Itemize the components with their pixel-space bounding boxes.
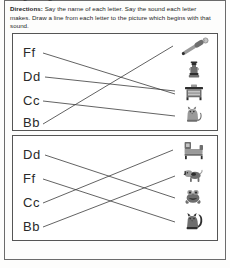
worksheet-page: Beginning sounds: Bb, Cc, Dd, Ff Directi… bbox=[0, 0, 230, 268]
exercise-box-2: Dd Ff Cc Bb bbox=[12, 135, 218, 241]
clipped-heading: Beginning sounds: Bb, Cc, Dd, Ff bbox=[12, 0, 212, 1]
picture-cat bbox=[177, 104, 211, 126]
line-cc-bed bbox=[43, 150, 173, 203]
line-bb-dog bbox=[43, 176, 175, 227]
letter-label-bb-2: Bb bbox=[23, 220, 40, 233]
letter-label-dd-2: Dd bbox=[23, 148, 41, 161]
letter-label-cc: Cc bbox=[23, 94, 40, 107]
picture-desk bbox=[177, 82, 211, 104]
letter-label-ff-2: Ff bbox=[23, 172, 36, 185]
exercise-box-1: Ff Dd Cc Bb bbox=[12, 33, 218, 131]
letter-label-bb: Bb bbox=[23, 116, 40, 129]
line-dd-desk bbox=[45, 77, 175, 91]
letter-label-dd: Dd bbox=[23, 70, 41, 83]
picture-bed bbox=[177, 138, 211, 164]
line-cc-cat bbox=[43, 101, 175, 116]
directions-text: Directions: Say the name of each letter.… bbox=[10, 5, 218, 31]
picture-dog bbox=[177, 164, 211, 186]
picture-frog bbox=[177, 186, 211, 208]
line-dd-frog bbox=[45, 155, 175, 198]
letter-label-cc-2: Cc bbox=[23, 196, 40, 209]
letter-label-ff: Ff bbox=[23, 46, 36, 59]
line-bb-bat bbox=[43, 46, 173, 124]
picture-squirrel-cat bbox=[177, 208, 211, 234]
picture-baseball-bat bbox=[177, 36, 211, 58]
picture-fire-hydrant bbox=[177, 60, 211, 82]
line-ff-desk bbox=[43, 53, 175, 94]
line-ff-cat bbox=[43, 179, 175, 222]
directions-label: Directions: bbox=[10, 5, 43, 12]
